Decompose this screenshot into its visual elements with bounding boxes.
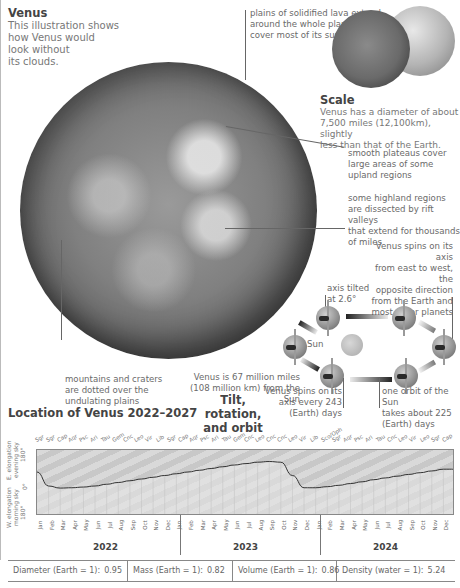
constellation-label: Aqr — [342, 433, 353, 443]
stat-mass: Mass (Earth = 1):0.82 — [128, 561, 233, 581]
axis-tilt-annotation: axis tilted at 2.6° — [327, 283, 369, 305]
annotation-line: axis every 243 — [242, 397, 342, 408]
sun-label: Sun — [307, 339, 323, 350]
y-label-west-2: morning sky — [12, 489, 19, 526]
constellation-label: Sgr — [34, 433, 45, 443]
orbit-arrow-lower-right — [418, 360, 436, 373]
orbit-arrow-top — [346, 314, 388, 319]
elongation-chart — [36, 449, 454, 515]
stat-label: Volume (Earth = 1): — [238, 566, 318, 575]
month-label: Oct — [420, 517, 426, 533]
year-label-2023: 2023 — [233, 542, 258, 552]
y-label-zero: 0° — [21, 483, 28, 490]
constellation-label: Psc — [353, 433, 364, 443]
venus-intro-text: This illustration shows how Venus would … — [8, 20, 119, 68]
year-divider-2023 — [180, 515, 181, 555]
constellation-label: Leo — [397, 433, 408, 443]
constellation-label: Tau — [375, 433, 386, 443]
spin-leader-line — [452, 297, 453, 342]
orbit-arrow-upper-left — [298, 320, 318, 334]
orbit-arrow-lower-left — [300, 357, 320, 371]
rotation-annotation: Venus spins on its axis every 243 (Earth… — [242, 386, 342, 419]
month-label: Jul — [246, 517, 252, 533]
constellation-label: Tau — [221, 433, 232, 443]
month-labels: JanFebMarAprMayJunJulAugSepOctNovDecJanF… — [36, 516, 454, 538]
annotation-line: axis tilted — [327, 283, 369, 294]
month-label: Jun — [95, 517, 101, 533]
orbit-venus-top-left — [316, 306, 340, 330]
month-label: Nov — [292, 517, 298, 533]
constellation-label: Leo — [254, 433, 265, 443]
annotation-line: smooth plateaus cover — [348, 148, 447, 159]
annotation-line: (Earth) days — [382, 419, 460, 430]
constellation-label: Ari — [89, 434, 99, 443]
plateaus-annotation: smooth plateaus cover large areas of som… — [348, 148, 447, 181]
mountains-annotation: mountains and craters are dotted over th… — [65, 374, 162, 407]
stat-density: Density (water = 1):5.24 — [337, 561, 455, 581]
month-label: Oct — [142, 517, 148, 533]
annotation-line: Venus is 67 million miles — [180, 372, 300, 383]
annotation-line: that extend for thousands — [348, 226, 460, 237]
month-label: Mar — [339, 517, 345, 533]
constellation-label: Psc — [199, 433, 210, 443]
stat-label: Diameter (Earth = 1): — [13, 566, 100, 575]
month-label: Dec — [443, 517, 449, 533]
y-label-east-1: E. elongation — [5, 441, 12, 480]
constellation-label: Leo — [419, 433, 430, 443]
intro-line: look without — [8, 44, 119, 56]
month-label: Jun — [374, 517, 380, 533]
annotation-line: mountains and craters — [65, 374, 162, 385]
annotation-line: upland regions — [348, 170, 447, 181]
constellation-label: Ari — [364, 434, 374, 443]
orbit-arrow-bottom — [350, 377, 392, 382]
orbit-leader-line — [379, 378, 380, 408]
constellation-label: Aqr — [188, 433, 199, 443]
intro-line: its clouds. — [8, 56, 119, 68]
left-border-rule — [0, 0, 1, 560]
month-label: Feb — [49, 517, 55, 533]
month-label: Sep — [409, 517, 415, 533]
annotation-line: are dissected by rift valleys — [348, 204, 460, 226]
orbit-period-annotation: one orbit of the Sun takes about 225 (Ea… — [382, 386, 460, 430]
scale-title: Scale — [320, 93, 355, 107]
planet-stats-row: Diameter (Earth = 1):0.95 Mass (Earth = … — [8, 560, 455, 582]
y-label-west-1: W. elongation — [5, 487, 12, 528]
constellation-label: Vir — [408, 434, 417, 443]
sun-illustration — [341, 334, 363, 356]
month-label: Apr — [211, 517, 217, 533]
month-label: Sep — [269, 517, 275, 533]
orbit-venus-left — [283, 335, 307, 359]
month-label: Aug — [118, 517, 124, 533]
chart-title: Location of Venus 2022–2027 — [8, 406, 197, 420]
month-label: Dec — [165, 517, 171, 533]
stat-value: 0.82 — [207, 566, 225, 575]
constellation-labels: SgrSgrCapAqrPscAriTauGemCncLeoVirLibSgrC… — [36, 433, 454, 447]
month-label: Feb — [327, 517, 333, 533]
scale-line: Venus has a diameter of about — [320, 107, 460, 118]
annotation-line: (Earth) days — [242, 408, 342, 419]
month-label: May — [223, 517, 229, 533]
constellation-label: Lib — [155, 434, 165, 443]
annotation-line: opposite direction — [360, 285, 453, 296]
rotation-leader-line — [343, 378, 344, 408]
stat-value: 0.95 — [104, 566, 122, 575]
constellation-label: Psc — [78, 433, 89, 443]
annotation-line: takes about 225 — [382, 408, 460, 419]
month-label: Jul — [107, 517, 113, 533]
stat-label: Density (water = 1): — [342, 566, 424, 575]
constellation-label: Vir — [144, 434, 153, 443]
month-label: Feb — [188, 517, 194, 533]
constellation-label: Sgr — [430, 433, 441, 443]
orbit-arrow-upper-right — [418, 320, 436, 333]
stat-value: 5.24 — [428, 566, 446, 575]
y-label-west-3: 180° — [19, 506, 26, 520]
constellation-label: Lib — [309, 434, 319, 443]
orbit-venus-top-right — [392, 306, 416, 330]
annotation-line: one orbit of the Sun — [382, 386, 460, 408]
month-label: Sep — [130, 517, 136, 533]
constellation-label: Vir — [298, 434, 307, 443]
month-label: Mar — [60, 517, 66, 533]
highlands-leader-line — [225, 228, 345, 229]
month-label: Apr — [72, 517, 78, 533]
annotation-line: Venus spins on its axis — [360, 241, 453, 263]
